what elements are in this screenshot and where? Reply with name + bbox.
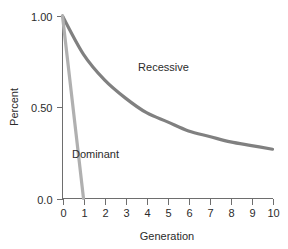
series-label-recessive: Recessive: [138, 61, 189, 73]
y-axis-ticks: [57, 17, 63, 200]
x-axis-tick-label: 2: [102, 207, 108, 219]
y-axis-title: Percent: [8, 88, 20, 126]
x-axis-tick-label: 9: [249, 207, 255, 219]
y-axis-tick-labels: 0.00.501.00: [31, 11, 52, 206]
series-annotation-group: RecessiveDominant: [72, 61, 189, 161]
x-axis-tick-label: 7: [207, 207, 213, 219]
chart-figure: 0.00.501.00 012345678910 RecessiveDomina…: [0, 0, 288, 249]
x-axis-tick-label: 8: [228, 207, 234, 219]
x-axis-tick-label: 6: [186, 207, 192, 219]
series-curve-recessive: [63, 16, 273, 149]
x-axis-tick-labels: 012345678910: [60, 207, 279, 219]
y-axis-tick-label: 0.50: [31, 102, 52, 114]
x-axis-ticks: [64, 199, 274, 205]
series-label-dominant: Dominant: [72, 148, 119, 160]
chart-canvas: 0.00.501.00 012345678910 RecessiveDomina…: [0, 0, 288, 249]
y-axis-tick-label: 0.0: [37, 194, 52, 206]
data-series-group: [63, 16, 273, 199]
x-axis-tick-label: 10: [267, 207, 279, 219]
x-axis-title: Generation: [140, 230, 194, 242]
x-axis-tick-label: 4: [144, 207, 150, 219]
y-axis-tick-label: 1.00: [31, 11, 52, 23]
x-axis-tick-label: 1: [81, 207, 87, 219]
series-curve-dominant: [63, 16, 84, 199]
x-axis-tick-label: 0: [60, 207, 66, 219]
x-axis-tick-label: 3: [123, 207, 129, 219]
x-axis-tick-label: 5: [165, 207, 171, 219]
